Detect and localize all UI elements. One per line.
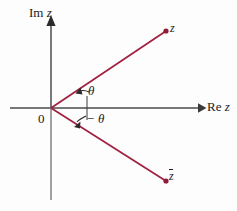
real-axis-label-prefix: Re bbox=[207, 99, 221, 114]
point-label-z: z bbox=[170, 22, 175, 34]
ray-to-z-conjugate bbox=[51, 108, 166, 181]
axes-group bbox=[10, 15, 207, 200]
rays-group bbox=[51, 31, 166, 181]
real-axis-label: Re z bbox=[207, 100, 230, 113]
point-marker-z bbox=[163, 28, 168, 33]
imaginary-axis-label-variable: z bbox=[47, 5, 52, 20]
point-label-z-conjugate: z bbox=[169, 170, 174, 182]
origin-label: 0 bbox=[38, 112, 45, 125]
neg-theta-leader-curve bbox=[77, 116, 86, 122]
diagram-canvas bbox=[0, 0, 237, 211]
negative-theta-angle-label: − θ bbox=[86, 112, 104, 125]
point-label-z-conjugate-text: z bbox=[169, 170, 174, 182]
imaginary-axis-label: Im z bbox=[29, 6, 52, 19]
point-marker-z-conjugate bbox=[163, 178, 168, 183]
point-label-z-text: z bbox=[170, 21, 175, 35]
imaginary-axis-label-prefix: Im bbox=[29, 5, 43, 20]
complex-plane-figure: Im z Re z 0 θ − θ z z bbox=[0, 0, 237, 211]
real-axis-arrowhead bbox=[198, 103, 207, 113]
ray-to-z bbox=[51, 31, 166, 108]
negative-theta-symbol: − θ bbox=[86, 111, 104, 126]
point-markers-group bbox=[163, 28, 168, 183]
theta-angle-label: θ bbox=[88, 84, 94, 97]
real-axis-label-variable: z bbox=[225, 99, 230, 114]
theta-symbol: θ bbox=[88, 83, 94, 98]
